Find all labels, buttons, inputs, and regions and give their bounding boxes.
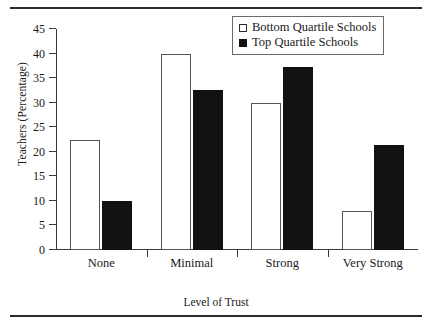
legend-item-top-quartile: Top Quartile Schools xyxy=(239,35,376,50)
y-axis-tick-label: 5 xyxy=(39,218,45,233)
bar xyxy=(102,201,132,250)
y-axis-tick: 35 xyxy=(49,77,56,78)
x-axis-category-label: Very Strong xyxy=(328,256,419,271)
bar xyxy=(374,145,404,250)
bar-series-container xyxy=(56,29,418,250)
y-axis-tick-label: 10 xyxy=(33,193,45,208)
x-axis-category-label: Minimal xyxy=(147,256,238,271)
legend-swatch-filled-square-icon xyxy=(239,39,247,47)
bar xyxy=(70,140,100,251)
y-axis-tick: 0 xyxy=(49,249,56,250)
y-axis-tick: 40 xyxy=(49,53,56,54)
bottom-rule xyxy=(10,315,422,317)
y-axis-tick-label: 40 xyxy=(33,46,45,61)
legend: Bottom Quartile Schools Top Quartile Sch… xyxy=(232,16,384,55)
y-axis-tick-label: 35 xyxy=(33,71,45,86)
y-axis-tick: 20 xyxy=(49,151,56,152)
y-axis-tick-label: 0 xyxy=(39,243,45,258)
legend-label: Bottom Quartile Schools xyxy=(252,20,376,35)
x-axis-category-label: Strong xyxy=(237,256,328,271)
y-axis-tick: 45 xyxy=(49,28,56,29)
legend-label: Top Quartile Schools xyxy=(252,35,358,50)
y-axis-tick-label: 25 xyxy=(33,120,45,135)
bar xyxy=(193,90,223,250)
y-axis-tick: 25 xyxy=(49,126,56,127)
x-axis-label: Level of Trust xyxy=(0,296,432,308)
legend-swatch-open-square-icon xyxy=(239,24,247,32)
y-axis-tick: 15 xyxy=(49,175,56,176)
y-axis-tick-label: 45 xyxy=(33,22,45,37)
y-axis-label: Teachers (Percentage) xyxy=(16,44,28,184)
figure: Teachers (Percentage) Level of Trust 051… xyxy=(0,0,432,326)
y-axis-tick: 30 xyxy=(49,102,56,103)
legend-item-bottom-quartile: Bottom Quartile Schools xyxy=(239,20,376,35)
y-axis-tick-label: 20 xyxy=(33,144,45,159)
bar xyxy=(251,103,281,250)
x-axis-category-label: None xyxy=(56,256,147,271)
y-axis-tick: 10 xyxy=(49,200,56,201)
top-rule xyxy=(10,7,422,9)
plot-area: 051015202530354045 NoneMinimalStrongVery… xyxy=(56,29,418,250)
y-axis-tick-label: 30 xyxy=(33,95,45,110)
y-axis-tick-label: 15 xyxy=(33,169,45,184)
y-axis-tick: 5 xyxy=(49,224,56,225)
bar xyxy=(342,211,372,250)
bar xyxy=(283,67,313,250)
bar xyxy=(161,54,191,250)
